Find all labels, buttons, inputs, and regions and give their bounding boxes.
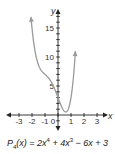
svg-text:10: 10 (45, 53, 54, 62)
svg-text:-2: -2 (28, 117, 36, 126)
function-graph: -3-2-1012351015xy (0, 0, 115, 135)
curve-arrowheads (29, 17, 78, 56)
svg-text:x: x (107, 111, 113, 121)
svg-text:2: 2 (82, 117, 87, 126)
fn-mid: + 4x (50, 138, 70, 148)
svg-text:y: y (50, 6, 56, 16)
function-equation: P4(x) = 2x4 + 4x3 − 6x + 3 (0, 137, 115, 150)
tick-labels: -3-2-1012351015xy (15, 6, 113, 126)
svg-text:-1: -1 (41, 117, 49, 126)
fn-tail: − 6x + 3 (73, 138, 108, 148)
svg-text:1: 1 (69, 117, 74, 126)
fn-arg: (x) = 2x (16, 138, 46, 148)
svg-text:-3: -3 (15, 117, 23, 126)
svg-text:15: 15 (45, 24, 54, 33)
svg-text:0: 0 (51, 117, 56, 126)
axes (6, 9, 108, 131)
svg-text:3: 3 (95, 117, 100, 126)
